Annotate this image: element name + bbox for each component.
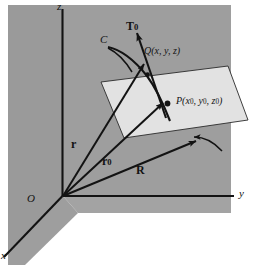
point-P-label: P(x0, y0, z0) <box>176 96 222 106</box>
vector-calculus-diagram: z y x O C T0 Q(x, y, z) P(x0, y0, z0) r … <box>0 0 259 265</box>
origin-label: O <box>27 193 35 204</box>
point-Q-label: Q(x, y, z) <box>144 46 180 56</box>
tangent-vector-label: T0 <box>126 20 138 32</box>
point-Q-marker <box>145 72 150 77</box>
y-axis-label: y <box>239 188 244 199</box>
vector-R-label: R <box>136 164 145 176</box>
wall-floor <box>63 196 231 213</box>
x-axis-label: x <box>1 250 6 261</box>
vector-r0-label: r0 <box>102 155 112 167</box>
tangent-vector-subscript: 0 <box>134 22 138 32</box>
coordinate-walls <box>8 5 231 265</box>
vector-r-label: r <box>71 138 76 150</box>
diagram-canvas <box>0 0 259 265</box>
vector-r0-subscript: 0 <box>107 157 111 167</box>
z-axis-label: z <box>57 1 61 12</box>
tangent-vector-letter: T <box>126 19 134 33</box>
curve-c-label: C <box>100 34 107 45</box>
point-P-marker <box>165 101 171 107</box>
